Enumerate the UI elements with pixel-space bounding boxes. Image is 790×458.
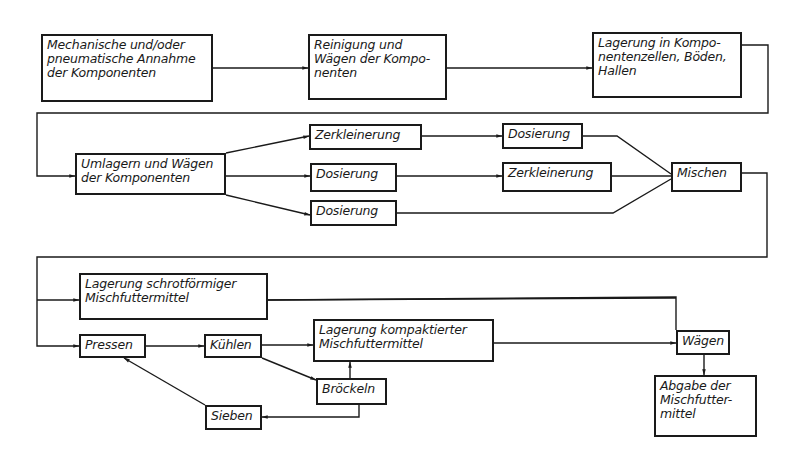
node-zerkleinerung-1: Zerkleinerung: [309, 124, 422, 150]
node-sieben: Sieben: [205, 405, 262, 430]
node-dosierung-3: Dosierung: [502, 123, 583, 149]
node-annahme: Mechanische und/oder pneumatische Annahm…: [41, 34, 213, 102]
node-lagerung-kompaktiert: Lagerung kompaktierter Mischfuttermittel: [313, 319, 494, 362]
node-kuehlen: Kühlen: [204, 334, 262, 358]
flowchart-canvas: Mechanische und/oder pneumatische Annahm…: [0, 0, 790, 458]
node-abgabe: Abgabe der Mischfutter- mittel: [654, 375, 757, 437]
node-broeckeln: Bröckeln: [316, 378, 387, 405]
node-mischen: Mischen: [671, 162, 742, 192]
node-umlagern-waegen: Umlagern und Wägen der Komponenten: [75, 153, 226, 195]
connector-17: [262, 358, 316, 380]
node-reinigung-waegen: Reinigung und Wägen der Kompo- nenten: [308, 34, 447, 100]
node-dosierung-1: Dosierung: [310, 163, 397, 192]
node-lagerung-schrotfoermig: Lagerung schrotförmiger Mischfuttermitte…: [79, 273, 268, 320]
node-zerkleinerung-2: Zerkleinerung: [502, 162, 612, 192]
node-lagerung-komponenten: Lagerung in Kompo- nentenzellen, Böden, …: [592, 32, 742, 98]
node-waegen: Wägen: [676, 330, 730, 355]
connector-3: [226, 136, 309, 153]
node-pressen: Pressen: [79, 334, 146, 358]
connector-20: [124, 358, 205, 405]
connector-5: [226, 195, 310, 215]
node-dosierung-2: Dosierung: [310, 200, 397, 226]
connector-19: [262, 405, 359, 417]
